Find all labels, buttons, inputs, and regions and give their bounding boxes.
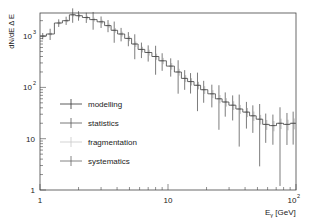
x-axis-title: Eγ [GeV] — [265, 208, 296, 218]
chart-canvas: 1 10 10 2 10 3 1 10 10 2 dN/dE Δ E Eγ [G… — [0, 0, 312, 218]
y-tick-exp-1000: 3 — [33, 29, 36, 35]
x-tick-label-1: 1 — [38, 196, 43, 205]
x-axis-ticks — [40, 184, 296, 190]
x-tick-label-10: 10 — [164, 196, 173, 205]
legend: modelling statistics fragmentation syste… — [60, 99, 137, 166]
x-tick-label-100: 10 — [288, 196, 297, 205]
y-axis-title: dN/dE Δ E — [7, 14, 16, 49]
legend-item-fragmentation: fragmentation — [60, 137, 137, 147]
plot-frame — [40, 13, 296, 190]
y-tick-label-100: 10 — [23, 83, 32, 92]
histogram-steps — [40, 15, 296, 126]
x-tick-exp-100: 2 — [297, 193, 300, 199]
y-axis-ticks — [40, 21, 46, 190]
legend-item-systematics: systematics — [60, 156, 130, 166]
legend-label: systematics — [88, 157, 130, 166]
legend-label: statistics — [88, 119, 119, 128]
legend-label: modelling — [88, 100, 122, 109]
y-tick-label-1000: 10 — [23, 32, 32, 41]
y-tick-exp-100: 2 — [33, 80, 36, 86]
legend-item-statistics: statistics — [60, 118, 119, 128]
legend-label: fragmentation — [88, 138, 137, 147]
error-bars — [41, 8, 295, 186]
legend-item-modelling: modelling — [60, 99, 122, 109]
y-tick-label-1: 1 — [31, 186, 36, 195]
y-tick-label-10: 10 — [26, 135, 35, 144]
